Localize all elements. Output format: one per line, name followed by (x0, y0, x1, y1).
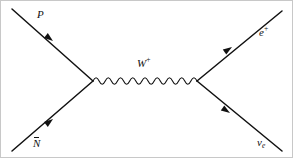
label-incoming-antinucleon: N (33, 137, 40, 149)
w-boson-charge: + (146, 55, 150, 64)
feynman-diagram-figure: P N W+ e+ νe (0, 0, 293, 158)
incoming-top-line (12, 9, 93, 81)
arrow-outgoing-top (223, 44, 234, 54)
overbar-accent: N (33, 137, 40, 149)
w-boson-symbol: W (137, 57, 146, 69)
label-electron-neutrino: νe (257, 137, 265, 148)
incoming-bottom-line (12, 81, 93, 151)
label-w-boson: W+ (137, 58, 150, 69)
diagram-canvas (1, 1, 293, 158)
label-positron: e+ (259, 27, 268, 38)
outgoing-top-line (197, 11, 282, 81)
label-incoming-proton: P (37, 9, 44, 20)
w-boson-propagator-wave (93, 78, 197, 84)
outgoing-bottom-line (197, 81, 282, 151)
neutrino-flavor-subscript: e (262, 141, 265, 150)
arrow-outgoing-bottom (221, 105, 232, 115)
positron-charge: + (264, 24, 268, 33)
arrowheads-group (44, 33, 234, 127)
